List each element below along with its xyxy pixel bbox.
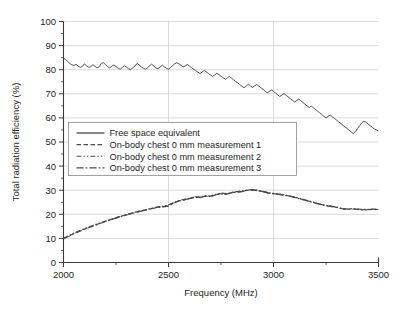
y-tick-label: 10: [45, 233, 56, 244]
x-axis-title: Frequency (MHz): [184, 287, 257, 298]
chart-legend: Free space equivalentOn-body chest 0 mm …: [69, 123, 297, 176]
y-tick-label: 60: [45, 112, 56, 123]
x-tick-label: 3500: [368, 269, 389, 280]
y-tick-label: 50: [45, 136, 56, 147]
legend-label-3: On-body chest 0 mm measurement 2: [110, 152, 262, 162]
y-tick-label: 30: [45, 185, 56, 196]
y-axis-title: Total radiation efficiency (%): [10, 83, 21, 202]
chart-figure: 01020304050607080901002000250030003500 F…: [0, 0, 400, 315]
legend-label-1: Free space equivalent: [110, 128, 201, 138]
y-tick-label: 40: [45, 161, 56, 172]
legend-label-4: On-body chest 0 mm measurement 3: [110, 163, 262, 173]
y-tick-label: 70: [45, 88, 56, 99]
x-tick-label: 2500: [158, 269, 179, 280]
x-tick-label: 3000: [263, 269, 284, 280]
legend-label-2: On-body chest 0 mm measurement 1: [110, 140, 262, 150]
y-tick-label: 0: [51, 257, 56, 268]
radiation-efficiency-chart: 01020304050607080901002000250030003500 F…: [0, 0, 400, 315]
x-tick-label: 2000: [53, 269, 74, 280]
y-tick-label: 100: [40, 16, 56, 27]
y-tick-label: 20: [45, 209, 56, 220]
y-tick-label: 90: [45, 40, 56, 51]
y-tick-label: 80: [45, 64, 56, 75]
